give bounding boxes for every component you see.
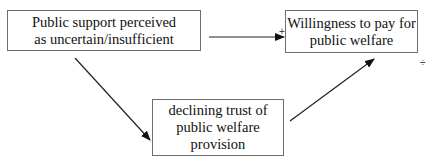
node-right-line1: Willingness to pay for [287, 15, 416, 32]
node-public-support: Public support perceived as uncertain/in… [7, 10, 201, 51]
node-bottom-line3: provision [168, 136, 267, 153]
node-bottom-line1: declining trust of [168, 102, 267, 119]
edge-sign-plus: + [279, 26, 285, 37]
edge-sign-divide: ÷ [420, 57, 426, 68]
node-right-line2: public welfare [287, 32, 416, 49]
node-willingness-to-pay: Willingness to pay for public welfare [285, 10, 418, 53]
node-declining-trust: declining trust of public welfare provis… [152, 99, 284, 156]
arrow-left-to-bottom [75, 58, 150, 140]
node-left-line1: Public support perceived [32, 14, 176, 31]
node-bottom-line2: public welfare [168, 119, 267, 136]
node-left-line2: as uncertain/insufficient [32, 31, 176, 48]
arrow-bottom-to-right [290, 59, 374, 121]
